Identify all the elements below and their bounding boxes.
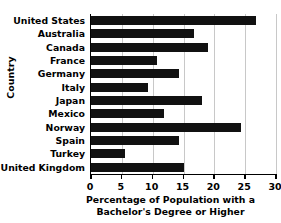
bar <box>91 56 157 65</box>
bar-row <box>91 134 276 147</box>
chart-title <box>0 0 281 2</box>
x-tick <box>152 174 154 179</box>
x-axis-tick-labels: 051015202530 <box>90 180 275 193</box>
x-axis-title: Percentage of Population with a Bachelor… <box>60 194 281 218</box>
category-label: France <box>0 54 88 67</box>
bar <box>91 109 164 118</box>
x-tick <box>183 174 185 179</box>
bar-row <box>91 107 276 120</box>
x-tick-label: 0 <box>87 180 94 193</box>
x-axis-title-line1: Percentage of Population with a <box>60 194 281 206</box>
category-labels: United StatesAustraliaCanadaFranceGerman… <box>0 14 88 174</box>
bar <box>91 136 179 145</box>
category-label: Italy <box>0 81 88 94</box>
bar <box>91 69 179 78</box>
bar <box>91 43 208 52</box>
bar-row <box>91 14 276 27</box>
x-tick <box>213 174 215 179</box>
gridline <box>276 14 277 174</box>
category-label: Germany <box>0 67 88 80</box>
x-tick <box>244 174 246 179</box>
bar-row <box>91 67 276 80</box>
category-label: Mexico <box>0 107 88 120</box>
x-tick-label: 10 <box>145 180 158 193</box>
bar-row <box>91 94 276 107</box>
x-tick-label: 30 <box>268 180 281 193</box>
bar <box>91 96 202 105</box>
bar-row <box>91 161 276 174</box>
x-axis-title-line2: Bachelor's Degree or Higher <box>60 206 281 218</box>
category-label: Spain <box>0 134 88 147</box>
x-tick-label: 5 <box>118 180 125 193</box>
bar <box>91 163 184 172</box>
x-tick-label: 20 <box>207 180 220 193</box>
bar <box>91 83 148 92</box>
category-label: Turkey <box>0 147 88 160</box>
bar-row <box>91 27 276 40</box>
bar-chart: Country United StatesAustraliaCanadaFran… <box>0 0 281 223</box>
bar-row <box>91 41 276 54</box>
category-label: Canada <box>0 41 88 54</box>
bar <box>91 123 241 132</box>
bar <box>91 16 256 25</box>
x-tick <box>275 174 277 179</box>
bar <box>91 29 194 38</box>
bar-row <box>91 81 276 94</box>
category-label: United States <box>0 14 88 27</box>
bar-row <box>91 54 276 67</box>
category-label: Japan <box>0 94 88 107</box>
bar-row <box>91 147 276 160</box>
bars <box>91 14 276 174</box>
x-tick <box>90 174 92 179</box>
bar-row <box>91 121 276 134</box>
category-label: United Kingdom <box>0 161 88 174</box>
x-tick-label: 15 <box>176 180 189 193</box>
bar <box>91 149 125 158</box>
category-label: Norway <box>0 121 88 134</box>
x-tick <box>121 174 123 179</box>
category-label: Australia <box>0 27 88 40</box>
x-tick-label: 25 <box>238 180 251 193</box>
plot-area <box>90 14 276 175</box>
